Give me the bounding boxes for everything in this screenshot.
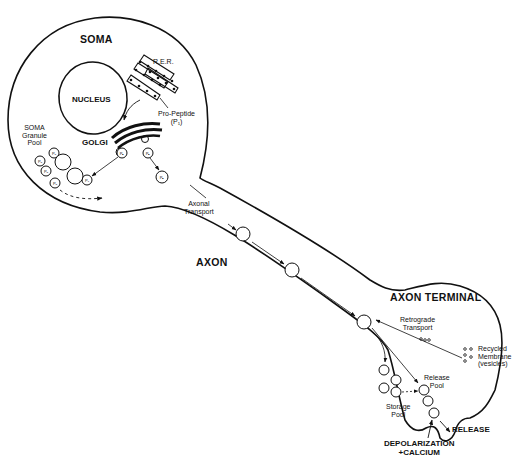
vesicle-label: Pₙ <box>146 151 151 156</box>
axon-terminal-label: AXON TERMINAL <box>390 292 481 304</box>
pro-peptide-pointer <box>160 98 168 108</box>
recycled-line3: (vesicles) <box>478 360 511 368</box>
vesicle-label: Pₐ <box>52 151 57 156</box>
release-pool-line2: Pool <box>424 382 450 390</box>
axon-vesicle <box>285 263 299 277</box>
axonal-transport-line2: Transport <box>184 208 214 216</box>
golgi-label: GOLGI <box>82 139 108 148</box>
vesicle-label: Pₐ <box>53 181 58 186</box>
recycled-membrane-vesicles <box>420 338 473 363</box>
release-pool-label: Release Pool <box>424 374 450 389</box>
granule-pool-dashed-arrow <box>60 190 102 199</box>
soma-granule-line3: Pool <box>22 139 47 147</box>
storage-pool-line2: Pool <box>386 411 411 419</box>
recycled-line1: Recycled <box>478 345 511 353</box>
pro-peptide-line2: (P₁) <box>158 118 195 126</box>
retrograde-line1: Retrograde <box>400 316 435 324</box>
soma-label: SOMA <box>80 34 113 46</box>
pro-peptide-label: Pro-Peptide (P₁) <box>158 110 195 125</box>
nucleus-label: NUCLEUS <box>72 96 111 105</box>
retrograde-line2: Transport <box>400 324 435 332</box>
axon-label: AXON <box>196 257 228 269</box>
depolarization-calcium-label: DEPOLARIZATION +CALCIUM <box>384 440 455 458</box>
axon-vesicle <box>236 227 250 241</box>
axonal-transport-arrow-3 <box>252 242 284 264</box>
recycled-membrane-label: Recycled Membrane (vesicles) <box>478 345 511 368</box>
release-arrow <box>440 421 450 432</box>
storage-to-release-dashed <box>402 391 418 392</box>
terminal-entry-vesicle <box>357 315 371 329</box>
recycled-line2: Membrane <box>478 353 511 361</box>
release-pool-vesicles <box>419 385 439 418</box>
golgi-to-axon-arrow <box>150 158 159 170</box>
axonal-transport-arrow-2 <box>228 224 236 230</box>
soma-granule-line2: Granule <box>22 132 47 140</box>
axonal-transport-arrow-1 <box>190 185 206 198</box>
release-pool-line1: Release <box>424 374 450 382</box>
vesicle-label: Pₙ <box>160 175 165 180</box>
depolarization-line2: +CALCIUM <box>384 449 455 458</box>
release-label: RELEASE <box>452 426 490 435</box>
neuron-diagram: Pₙ Pₙ Pₙ P₁ Pₐ Pₐ Pₐ Pₐ <box>0 0 532 467</box>
storage-pool-label: Storage Pool <box>386 403 411 418</box>
soma-granule-pool-label: SOMA Granule Pool <box>22 124 47 147</box>
axonal-transport-line1: Axonal <box>184 200 214 208</box>
depolarization-arrow <box>428 420 432 438</box>
retrograde-transport-label: Retrograde Transport <box>400 316 435 331</box>
storage-pool-vesicles <box>379 365 401 397</box>
vesicle-label: Pₙ <box>120 151 125 156</box>
storage-pool-line1: Storage <box>386 403 411 411</box>
rer-label: R.E.R. <box>153 58 174 66</box>
vesicle-label: Pₐ <box>38 159 43 164</box>
vesicle-label: Pₐ <box>44 169 49 174</box>
pro-peptide-line1: Pro-Peptide <box>158 110 195 118</box>
golgi-to-p1-arrow <box>92 157 118 176</box>
soma-granule-line1: SOMA <box>22 124 47 132</box>
axonal-transport-label: Axonal Transport <box>184 200 214 215</box>
vesicle-label: P₁ <box>85 178 90 183</box>
axonal-transport-arrow-4 <box>301 278 355 316</box>
